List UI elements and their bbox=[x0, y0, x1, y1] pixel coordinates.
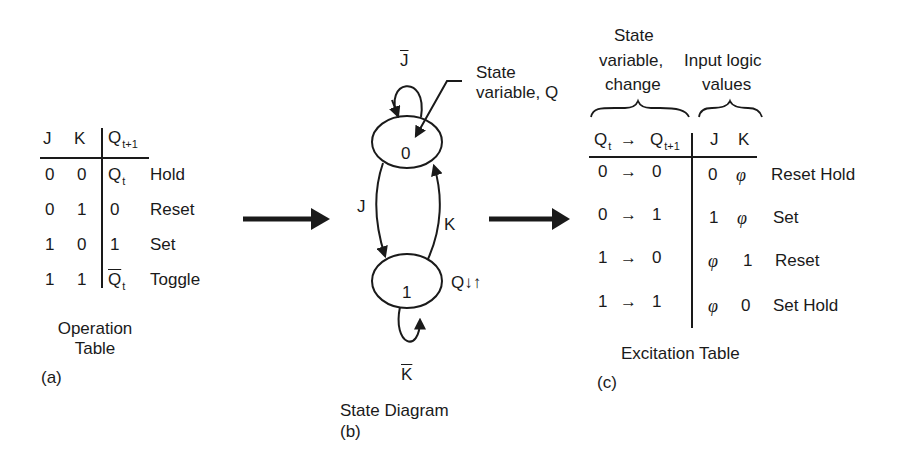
ex-row-3-to: 1 bbox=[652, 293, 661, 310]
ex-row-1-arrow: → bbox=[620, 206, 637, 223]
state-1-label: 1 bbox=[402, 284, 411, 301]
ex-row-3-label: Set Hold bbox=[773, 297, 838, 314]
output-label: Q↓↑ bbox=[451, 274, 481, 291]
ex-row-0-j: 0 bbox=[708, 166, 717, 183]
row-2-label: Set bbox=[150, 236, 176, 253]
row-1-q: 0 bbox=[110, 201, 119, 218]
row-1-label: Reset bbox=[150, 201, 194, 218]
group-header-right-2: values bbox=[702, 76, 751, 93]
row-1-j: 0 bbox=[45, 201, 54, 218]
ex-row-0-to: 0 bbox=[652, 163, 661, 180]
group-header-right-1: Input logic bbox=[684, 52, 762, 69]
row-0-q: Qt bbox=[108, 166, 125, 183]
self-loop-0-label: J bbox=[400, 52, 409, 69]
row-3-q-bar: Qt bbox=[108, 271, 125, 288]
ex-row-0-from: 0 bbox=[598, 163, 607, 180]
row-0-k: 0 bbox=[77, 166, 86, 183]
state-annotation-1: State bbox=[476, 64, 516, 81]
header-qt: Qt bbox=[594, 131, 611, 148]
arrow-a-to-b bbox=[243, 208, 330, 230]
group-header-left-3: change bbox=[605, 76, 661, 93]
ex-row-1-label: Set bbox=[773, 209, 799, 226]
ex-row-3-arrow: → bbox=[620, 293, 637, 310]
row-2-k: 0 bbox=[77, 236, 86, 253]
state-diagram-art bbox=[372, 81, 462, 342]
group-header-left-2: variable, bbox=[599, 52, 663, 69]
header-k: K bbox=[74, 130, 85, 147]
panel-label-c: (c) bbox=[597, 374, 617, 391]
ex-row-0-arrow: → bbox=[620, 163, 637, 180]
group-header-left-1: State bbox=[614, 27, 654, 44]
operation-table-rules bbox=[40, 128, 149, 288]
ex-row-2-arrow: → bbox=[620, 249, 637, 266]
row-3-j: 1 bbox=[45, 271, 54, 288]
operation-table-caption-2: Table bbox=[40, 340, 150, 357]
state-diagram-caption: State Diagram bbox=[340, 402, 449, 419]
header-q-next: Qt+1 bbox=[108, 129, 138, 146]
panel-label-b: (b) bbox=[340, 423, 361, 440]
ex-row-2-label: Reset bbox=[775, 252, 819, 269]
transition-k-label: K bbox=[444, 216, 455, 233]
header-j: J bbox=[710, 131, 719, 148]
ex-row-1-from: 0 bbox=[598, 206, 607, 223]
arrow-b-to-c bbox=[489, 208, 570, 230]
row-3-k: 1 bbox=[77, 271, 86, 288]
header-j: J bbox=[43, 130, 52, 147]
panel-label-a: (a) bbox=[41, 369, 62, 386]
excitation-table-caption: Excitation Table bbox=[621, 345, 740, 362]
header-qn: Qt+1 bbox=[650, 131, 680, 148]
ex-row-2-from: 1 bbox=[598, 249, 607, 266]
ex-row-2-to: 0 bbox=[652, 249, 661, 266]
ex-row-2-j: φ bbox=[708, 252, 718, 270]
self-loop-1-label: K bbox=[401, 366, 412, 383]
state-0-label: 0 bbox=[401, 145, 410, 162]
ex-row-3-k: 0 bbox=[741, 297, 750, 314]
ex-row-3-j: φ bbox=[708, 297, 718, 315]
operation-table-caption-1: Operation bbox=[40, 320, 150, 337]
row-1-k: 1 bbox=[77, 201, 86, 218]
ex-row-3-from: 1 bbox=[598, 293, 607, 310]
header-k: K bbox=[738, 131, 749, 148]
row-2-q: 1 bbox=[110, 236, 119, 253]
ex-row-1-k: φ bbox=[737, 209, 747, 227]
row-3-label: Toggle bbox=[150, 271, 200, 288]
ex-row-1-to: 1 bbox=[652, 206, 661, 223]
state-annotation-2: variable, Q bbox=[476, 84, 558, 101]
ex-row-2-k: 1 bbox=[743, 252, 752, 269]
transition-j-label: J bbox=[357, 198, 366, 215]
row-0-j: 0 bbox=[45, 166, 54, 183]
ex-row-1-j: 1 bbox=[709, 209, 718, 226]
row-0-label: Hold bbox=[150, 166, 185, 183]
row-2-j: 1 bbox=[45, 236, 54, 253]
ex-row-0-k: φ bbox=[736, 166, 746, 184]
ex-row-0-label: Reset Hold bbox=[771, 166, 855, 183]
header-arrow: → bbox=[620, 131, 637, 148]
line-art bbox=[0, 0, 908, 471]
